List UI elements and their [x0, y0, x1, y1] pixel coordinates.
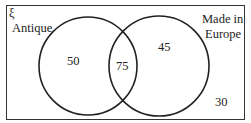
- intersection-value: 75: [116, 60, 129, 73]
- set-europe-label-line2: Europe: [205, 28, 241, 41]
- universal-set-symbol: ξ: [9, 7, 15, 20]
- outside-value: 30: [215, 96, 228, 109]
- set-antique-label: Antique: [12, 22, 52, 35]
- set-europe-label-line1: Made in: [202, 13, 243, 26]
- antique-only-value: 50: [67, 55, 80, 68]
- europe-only-value: 45: [158, 41, 171, 54]
